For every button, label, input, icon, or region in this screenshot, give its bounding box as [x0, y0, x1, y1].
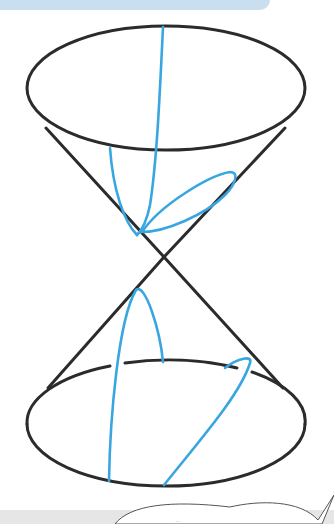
lower-right-section [164, 358, 250, 485]
bubble-text: … [175, 517, 181, 523]
lower-rim-back-left [27, 366, 110, 424]
upper-right-generator [164, 128, 285, 257]
lower-rim-back-mid [125, 360, 237, 368]
ellipse-section [142, 172, 235, 232]
hyperbola-upper-branch [137, 27, 163, 235]
lower-left-generator [48, 257, 164, 388]
speech-bubble [115, 495, 334, 524]
lower-rim-front [27, 424, 305, 486]
upper-rim-ellipse [27, 26, 305, 150]
lower-right-generator [164, 257, 283, 388]
double-cone-diagram: … [0, 0, 334, 524]
upper-left-generator [46, 128, 164, 257]
parabola-section [109, 289, 163, 481]
lower-rim-back-right [252, 372, 305, 424]
